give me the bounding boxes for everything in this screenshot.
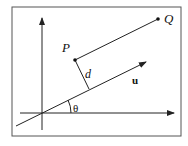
point-p-dot (73, 58, 77, 62)
distance-d-label: d (85, 67, 92, 81)
segment-pq (75, 19, 158, 60)
diagram-figure: P Q d u θ (0, 0, 188, 146)
angle-theta-label: θ (73, 102, 78, 114)
point-p-label: P (61, 40, 70, 55)
vector-u-label: u (132, 74, 138, 86)
angle-arc (68, 100, 71, 113)
point-q-label: Q (164, 11, 174, 26)
figure-frame (12, 7, 181, 136)
point-q-dot (156, 17, 160, 21)
